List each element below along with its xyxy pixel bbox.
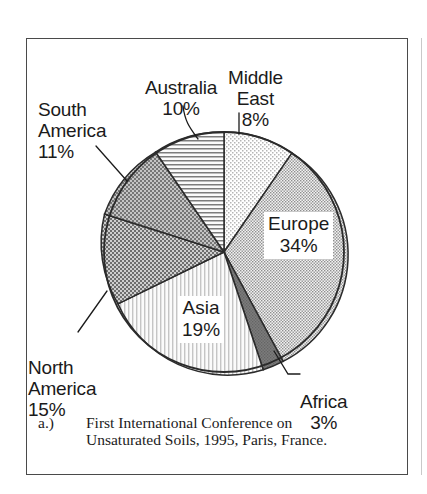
pie-label-australia-pct: 10% [145, 98, 217, 119]
pie-label-south-america-name: South America [38, 99, 106, 141]
figure-caption: a.) First International Conference on Un… [38, 414, 394, 448]
pie-label-asia-pct: 19% [182, 319, 220, 341]
leader-line-north-america [78, 291, 107, 332]
pie-label-europe: Europe 34% [264, 212, 333, 259]
pie-label-north-america-name: North America [28, 357, 96, 399]
figure-caption-text: First International Conference on Unsatu… [86, 414, 394, 448]
pie-label-africa-name: Africa [300, 391, 347, 412]
pie-label-asia-name: Asia [183, 297, 220, 318]
pie-label-middle-east-name: Middle East [228, 67, 283, 109]
pie-label-australia: Australia 10% [145, 56, 217, 140]
pie-label-europe-pct: 34% [268, 235, 329, 257]
pie-label-south-america: South America 11% [38, 78, 106, 183]
pie-label-middle-east: Middle East 8% [228, 46, 283, 151]
figure-caption-marker: a.) [38, 414, 72, 431]
pie-label-europe-name: Europe [268, 213, 329, 234]
pie-label-middle-east-pct: 8% [228, 109, 283, 130]
pie-label-south-america-pct: 11% [38, 141, 106, 162]
pie-label-australia-name: Australia [145, 77, 217, 98]
pie-label-asia: Asia 19% [178, 296, 224, 343]
